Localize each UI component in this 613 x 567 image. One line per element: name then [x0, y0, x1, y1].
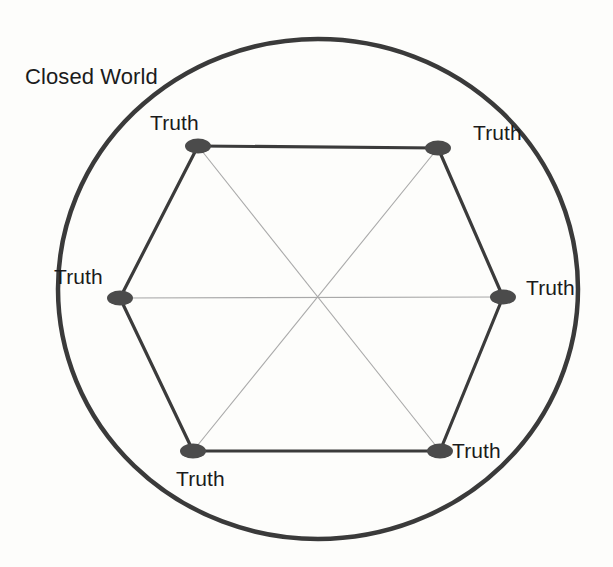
truth-label-truth-left: Truth [54, 266, 103, 287]
truth-label-truth-top-left: Truth [150, 112, 199, 133]
diagram-canvas: Closed World TruthTruthTruthTruthTruthTr… [0, 0, 613, 567]
truth-node-truth-bottom-left[interactable] [180, 444, 206, 459]
hexagon-edges [120, 146, 503, 451]
truth-label-truth-top-right: Truth [473, 122, 522, 143]
hexagon-diagonal [198, 146, 440, 451]
hexagon-diagonal [193, 148, 438, 451]
truth-node-truth-right[interactable] [490, 290, 516, 305]
closed-world-label: Closed World [25, 66, 158, 87]
truth-node-truth-top-right[interactable] [425, 141, 451, 156]
truth-label-truth-right: Truth [526, 277, 575, 298]
hexagon-edge [438, 148, 503, 297]
truth-node-truth-left[interactable] [107, 291, 133, 306]
hexagon-diagonals [120, 146, 503, 451]
hexagon-edge [120, 298, 193, 451]
truth-label-truth-bottom-left: Truth [176, 468, 225, 489]
truth-node-truth-top-left[interactable] [185, 139, 211, 154]
hexagon-diagonal [120, 297, 503, 298]
hexagon-edge [120, 146, 198, 298]
truth-node-truth-bottom-right[interactable] [427, 444, 453, 459]
hexagon-edge [440, 297, 503, 451]
truth-label-truth-bottom-right: Truth [452, 440, 501, 461]
hexagon-edge [198, 146, 438, 148]
